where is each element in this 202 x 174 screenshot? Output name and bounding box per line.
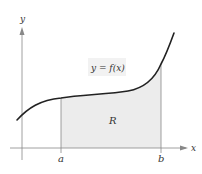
y-axis-arrow-icon	[20, 27, 25, 35]
bound-label-b: b	[158, 153, 164, 164]
bound-label-a: a	[58, 153, 64, 164]
area-under-curve-diagram: y x y = f(x) R a b	[0, 0, 202, 174]
y-axis-label: y	[19, 14, 26, 24]
x-axis-arrow-icon	[180, 146, 188, 151]
function-label: y = f(x)	[90, 63, 125, 73]
region-r-shading	[61, 64, 161, 148]
x-axis-label: x	[191, 143, 196, 153]
region-label: R	[108, 115, 117, 126]
